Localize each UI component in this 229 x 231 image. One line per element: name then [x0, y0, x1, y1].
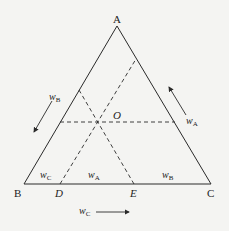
vertex-A-label: A: [113, 13, 121, 25]
segment-label-wC: wC: [40, 169, 52, 182]
vertex-B-label: B: [14, 187, 21, 199]
point-O-label: O: [113, 109, 121, 121]
ternary-diagram: A B C O D E wB wA wC wC wA wB: [0, 0, 229, 231]
side-label-wA: wA: [186, 115, 198, 128]
segment-label-wB: wB: [162, 169, 174, 182]
vertex-C-label: C: [207, 187, 214, 199]
bottom-label-wC: wC: [79, 205, 91, 218]
segment-label-wA: wA: [88, 169, 100, 182]
point-D-label: D: [54, 187, 63, 199]
point-E-label: E: [129, 187, 137, 199]
arrow-wA: [169, 87, 186, 115]
triangle-outline: [24, 26, 211, 184]
side-label-wB: wB: [49, 91, 61, 104]
dashed-line-D: [60, 59, 136, 184]
arrow-wB: [34, 101, 52, 132]
